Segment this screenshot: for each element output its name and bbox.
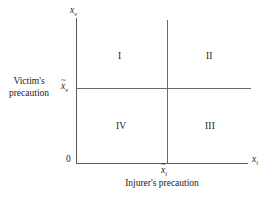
y-threshold-tick-label: ~xv — [61, 82, 68, 92]
x-threshold-subscript: i — [165, 170, 167, 177]
y-axis-caption: Victim's precaution — [0, 76, 58, 99]
x-axis-label-subscript: i — [256, 159, 258, 166]
x-threshold-tilde: ~ — [161, 160, 164, 169]
y-threshold-tilde: ~ — [61, 76, 64, 85]
x-threshold-tick-label: ~xi — [161, 166, 167, 176]
quadrant-label-ii: II — [206, 52, 213, 62]
x-threshold-accent-wrap: ~x — [161, 166, 165, 176]
quadrant-label-iii: III — [205, 122, 215, 132]
quadrant-label-iv: IV — [116, 122, 126, 132]
y-threshold-line — [76, 88, 251, 89]
x-threshold-line — [167, 20, 168, 164]
y-threshold-subscript: v — [65, 86, 68, 93]
x-axis-caption: Injurer's precaution — [76, 179, 248, 189]
precaution-quadrant-diagram: xv xi 0 ~xv ~xi I II III IV Victim's pre… — [0, 0, 275, 198]
x-axis-label: xi — [252, 155, 258, 165]
y-axis-line — [76, 18, 77, 164]
y-axis-label-subscript: v — [74, 10, 77, 17]
y-threshold-accent-wrap: ~x — [61, 82, 65, 92]
origin-label: 0 — [66, 155, 71, 165]
y-axis-caption-line2: precaution — [0, 88, 58, 100]
y-axis-label: xv — [70, 6, 77, 16]
y-axis-caption-line1: Victim's — [0, 76, 58, 88]
quadrant-label-i: I — [118, 52, 121, 62]
